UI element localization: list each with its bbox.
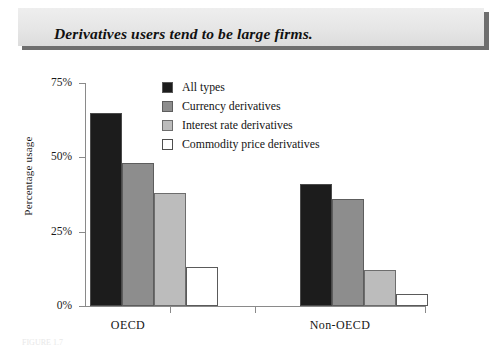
bottom-caption: FIGURE 1.7 — [22, 338, 492, 347]
legend-swatch-icon-all-types — [162, 82, 173, 93]
y-axis-title: Percentage usage — [22, 116, 34, 236]
x-tick-right — [425, 307, 426, 313]
y-tick-2 — [79, 157, 85, 158]
legend-swatch-icon-currency — [162, 101, 173, 112]
chart-area: Percentage usage 0% 25% 50% 75% OECD Non… — [0, 52, 503, 347]
x-tick-mid — [255, 307, 256, 313]
bar-non-oecd-interest-rate — [364, 270, 396, 306]
bar-non-oecd-all-types — [300, 184, 332, 306]
y-tick-1 — [79, 232, 85, 233]
y-axis-line — [85, 83, 86, 307]
legend-item-interest-rate: Interest rate derivatives — [162, 116, 320, 135]
legend-swatch-icon-commodity — [162, 139, 173, 150]
y-tick-label-1: 25% — [16, 225, 72, 237]
title-banner: Derivatives users tend to be large firms… — [18, 8, 484, 46]
legend-label-interest-rate: Interest rate derivatives — [182, 118, 293, 133]
y-tick-label-3: 75% — [16, 76, 72, 88]
legend-label-currency: Currency derivatives — [182, 99, 281, 114]
legend-item-all-types: All types — [162, 78, 320, 97]
bar-oecd-all-types — [90, 113, 122, 306]
y-tick-label-0: 0% — [16, 299, 72, 311]
title-banner-shadow-right — [484, 12, 489, 50]
legend-label-commodity: Commodity price derivatives — [182, 137, 320, 152]
title-banner-shadow-bottom — [22, 46, 489, 50]
bar-oecd-currency — [122, 163, 154, 306]
y-tick-0 — [79, 306, 85, 307]
chart-title: Derivatives users tend to be large firms… — [54, 25, 313, 43]
x-category-label-non-oecd: Non-OECD — [270, 318, 410, 333]
y-tick-label-2: 50% — [16, 150, 72, 162]
legend-item-currency: Currency derivatives — [162, 97, 320, 116]
x-tick-left — [170, 307, 171, 313]
bar-oecd-interest-rate — [154, 193, 186, 306]
chart-legend: All types Currency derivatives Interest … — [162, 78, 320, 154]
x-category-label-oecd: OECD — [58, 318, 198, 333]
legend-label-all-types: All types — [182, 80, 225, 95]
bar-non-oecd-currency — [332, 199, 364, 306]
legend-swatch-icon-interest-rate — [162, 120, 173, 131]
y-tick-3 — [79, 83, 85, 84]
bar-oecd-commodity — [186, 267, 218, 306]
legend-item-commodity: Commodity price derivatives — [162, 135, 320, 154]
bar-non-oecd-commodity — [396, 294, 428, 306]
